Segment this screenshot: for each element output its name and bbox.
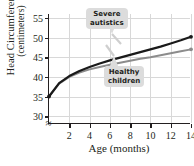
- y-axis-label: Head Circumference (centimeters): [5, 0, 27, 91]
- annotation-severe-autistics: Severe autistics: [86, 8, 128, 29]
- annotation-severe-line2: autistics: [90, 19, 124, 28]
- x-tick-mark: [69, 124, 70, 128]
- end-point-marker-healthy: [189, 47, 193, 51]
- x-tick-label: 12: [166, 130, 176, 141]
- x-tick-mark: [191, 124, 192, 128]
- y-tick-label: 55: [33, 12, 43, 23]
- x-tick-mark: [171, 124, 172, 128]
- annotation-healthy-line1: Healthy: [108, 68, 140, 77]
- x-tick-label: 10: [145, 130, 155, 141]
- y-axis-label-line2: (centimeters): [16, 0, 27, 91]
- gridline-vertical: [191, 14, 192, 123]
- x-tick-label: 6: [107, 130, 112, 141]
- x-axis-label: Age (months): [48, 142, 190, 154]
- x-tick-label: 4: [87, 130, 92, 141]
- annotation-severe-line1: Severe: [90, 10, 124, 19]
- x-tick-mark: [150, 124, 151, 128]
- annotation-healthy-children: Healthy children: [104, 66, 144, 87]
- x-tick-label: 14: [186, 130, 194, 141]
- end-point-marker-severe: [189, 35, 193, 39]
- x-tick-label: 2: [67, 130, 72, 141]
- y-tick-label: 30: [33, 111, 43, 122]
- x-tick-mark: [130, 124, 131, 128]
- y-axis-label-line1: Head Circumference: [5, 0, 16, 75]
- x-tick-label: 8: [128, 130, 133, 141]
- start-point-marker: [47, 95, 51, 99]
- annotation-healthy-line2: children: [108, 77, 140, 86]
- x-tick-mark: [110, 124, 111, 128]
- chart-container: Head Circumference (centimeters) 3035404…: [0, 0, 194, 166]
- y-tick-label: 40: [33, 71, 43, 82]
- x-tick-mark: [90, 124, 91, 128]
- y-tick-label: 50: [33, 32, 43, 43]
- y-tick-label: 45: [33, 52, 43, 63]
- y-tick-label: 35: [33, 91, 43, 102]
